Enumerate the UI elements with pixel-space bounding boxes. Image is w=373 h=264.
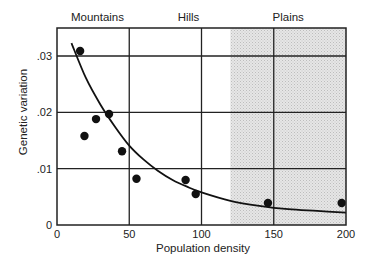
y-axis-tick-labels: 0.01.02.03 [37, 50, 52, 231]
data-point [192, 190, 200, 198]
data-point [92, 115, 100, 123]
data-point [132, 175, 140, 183]
shaded-region [230, 28, 346, 225]
region-label-hills: Hills [178, 11, 200, 23]
scatter-chart: 0.01.02.03 050100150200 MountainsHillsPl… [0, 0, 373, 264]
region-label-plains: Plains [273, 11, 305, 23]
region-label-mountains: Mountains [71, 11, 124, 23]
y-tick-label: .02 [37, 106, 52, 118]
y-axis-label: Genetic variation [17, 69, 29, 155]
y-tick-label: .03 [37, 50, 52, 62]
x-tick-label: 200 [337, 228, 355, 240]
data-point [80, 132, 88, 140]
data-point [181, 176, 189, 184]
x-tick-label: 0 [54, 228, 60, 240]
data-point [118, 147, 126, 155]
data-point [337, 199, 345, 207]
x-tick-label: 50 [123, 228, 135, 240]
data-point [264, 199, 272, 207]
x-axis-label: Population density [156, 242, 250, 254]
x-axis-tick-labels: 050100150200 [54, 228, 355, 240]
y-tick-label: 0 [46, 219, 52, 231]
x-tick-label: 150 [265, 228, 283, 240]
y-tick-label: .01 [37, 163, 52, 175]
region-labels: MountainsHillsPlains [71, 11, 304, 23]
plains-shaded-region [230, 28, 346, 225]
data-point [105, 110, 113, 118]
x-tick-label: 100 [192, 228, 210, 240]
data-point [76, 47, 84, 55]
